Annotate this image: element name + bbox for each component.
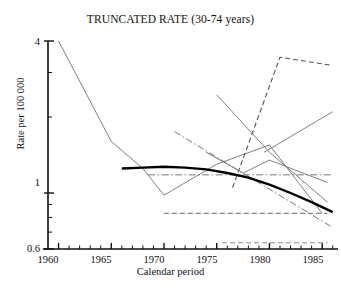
series-mid-rising xyxy=(206,152,327,182)
axis-ticks xyxy=(44,41,333,249)
chart-figure: TRUNCATED RATE (30-74 years) Rate per 10… xyxy=(0,0,341,290)
data-series-group xyxy=(59,41,333,243)
series-fitted-curve xyxy=(122,167,333,212)
axes xyxy=(43,41,338,249)
series-dashed-rising xyxy=(233,57,333,187)
series-lower-right-rising xyxy=(264,112,333,153)
plot-area xyxy=(0,0,341,290)
series-steep-decline xyxy=(59,41,323,213)
